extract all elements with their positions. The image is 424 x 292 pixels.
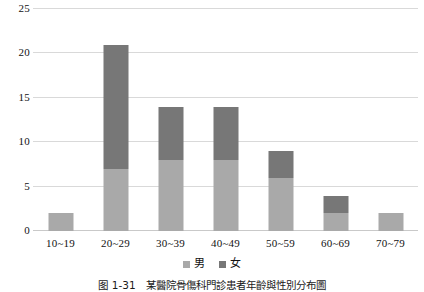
y-tick-label: 25 <box>4 3 30 14</box>
bar-segment-男[interactable] <box>213 160 238 231</box>
y-tick-label: 15 <box>4 92 30 103</box>
y-tick-label: 10 <box>4 136 30 147</box>
bar-group[interactable] <box>33 8 88 231</box>
bar-segment-女[interactable] <box>213 107 238 160</box>
x-tick-label: 50~59 <box>253 236 308 250</box>
legend-item[interactable]: 女 <box>219 258 241 270</box>
figure-caption: 图 1-31 某醫院骨傷科門診患者年齡與性別分布圖 <box>0 279 424 292</box>
legend-label: 女 <box>230 258 241 270</box>
x-tick-label: 30~39 <box>143 236 198 250</box>
legend-swatch-icon <box>183 261 190 268</box>
legend-item[interactable]: 男 <box>183 258 205 270</box>
bar-segment-男[interactable] <box>323 213 348 231</box>
bar-group[interactable] <box>308 8 363 231</box>
bar-group[interactable] <box>143 8 198 231</box>
bar-segment-女[interactable] <box>323 196 348 214</box>
bar-stack[interactable] <box>158 107 183 231</box>
bar-segment-女[interactable] <box>158 107 183 160</box>
bar-stack[interactable] <box>323 196 348 232</box>
x-tick-label: 40~49 <box>198 236 253 250</box>
bar-segment-男[interactable] <box>268 178 293 231</box>
legend-label: 男 <box>194 258 205 270</box>
bar-group[interactable] <box>198 8 253 231</box>
y-tick-label: 0 <box>4 225 30 236</box>
y-axis: 0510152025 <box>0 8 30 233</box>
y-tick-label: 5 <box>4 181 30 192</box>
x-tick-label: 70~79 <box>363 236 418 250</box>
bar-group[interactable] <box>88 8 143 231</box>
bar-group[interactable] <box>363 8 418 231</box>
bar-stack[interactable] <box>213 107 238 231</box>
x-axis: 10~1920~2930~3940~4950~5960~6970~79 <box>33 236 418 252</box>
bar-segment-男[interactable] <box>378 213 403 231</box>
bar-stack[interactable] <box>268 151 293 231</box>
bar-segment-男[interactable] <box>158 160 183 231</box>
bar-stack[interactable] <box>378 213 403 231</box>
x-tick-label: 60~69 <box>308 236 363 250</box>
bar-stack[interactable] <box>103 45 128 231</box>
y-tick-label: 20 <box>4 47 30 58</box>
bar-segment-男[interactable] <box>48 213 73 231</box>
x-tick-label: 10~19 <box>33 236 88 250</box>
bar-segment-女[interactable] <box>103 45 128 169</box>
legend-swatch-icon <box>219 261 226 268</box>
bar-segment-男[interactable] <box>103 169 128 231</box>
bars-layer <box>33 8 418 231</box>
x-tick-label: 20~29 <box>88 236 143 250</box>
bar-group[interactable] <box>253 8 308 231</box>
chart-legend: 男女 <box>0 256 424 272</box>
bar-stack[interactable] <box>48 213 73 231</box>
bar-segment-女[interactable] <box>268 151 293 178</box>
